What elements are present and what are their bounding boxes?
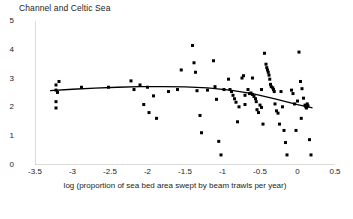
data-point [199, 114, 202, 117]
data-point [227, 78, 230, 81]
data-point [214, 85, 217, 88]
data-point [155, 117, 158, 120]
data-point [55, 100, 58, 103]
data-point [295, 129, 298, 132]
data-point [58, 80, 61, 83]
data-point [238, 105, 241, 108]
data-point [301, 87, 304, 90]
x-tick-label: -3 [58, 168, 88, 176]
data-point [296, 100, 299, 103]
chart-title: Channel and Celtic Sea [19, 3, 111, 13]
data-point [142, 103, 145, 106]
scatter-canvas [35, 21, 335, 165]
data-point [256, 108, 259, 111]
data-point [232, 94, 235, 97]
data-point [55, 83, 58, 86]
data-point [55, 106, 58, 109]
data-point [255, 100, 258, 103]
data-point [133, 88, 136, 91]
data-point [220, 153, 223, 156]
data-point [299, 80, 302, 83]
data-point [223, 88, 226, 91]
data-point [274, 102, 277, 105]
data-point [206, 89, 209, 92]
data-point [267, 71, 270, 74]
x-tick-label: -2.5 [95, 168, 125, 176]
data-point [310, 153, 313, 156]
data-point [180, 68, 183, 71]
data-point [194, 71, 197, 74]
x-tick-label: -1 [208, 168, 238, 176]
data-point [260, 106, 263, 109]
data-point [233, 97, 236, 100]
data-point [148, 111, 151, 114]
data-point [257, 111, 260, 114]
chart-figure: Channel and Celtic Sea log (starfish cat… [0, 0, 353, 219]
data-point [217, 140, 220, 143]
data-point [265, 63, 268, 66]
y-tick-label: 2 [0, 103, 14, 111]
data-point [298, 51, 301, 54]
data-point [235, 101, 238, 104]
data-point [280, 90, 283, 93]
data-point [262, 123, 265, 126]
plot-area [35, 21, 335, 165]
data-point [107, 86, 110, 89]
data-point [230, 90, 233, 93]
data-point [290, 89, 293, 92]
data-point [278, 123, 281, 126]
x-tick-label: -2 [133, 168, 163, 176]
y-tick-label: 5 [0, 17, 14, 25]
data-point [300, 117, 303, 120]
data-point [307, 104, 310, 107]
x-tick-label: -0.5 [245, 168, 275, 176]
data-point [244, 94, 247, 97]
data-point [176, 88, 179, 91]
data-point [268, 74, 271, 77]
y-tick-label: 3 [0, 75, 14, 83]
data-point [286, 153, 289, 156]
data-point [308, 138, 311, 141]
data-point [283, 129, 286, 132]
x-tick-label: -1.5 [170, 168, 200, 176]
data-point [152, 94, 155, 97]
data-point [193, 61, 196, 64]
x-tick-label: -3.5 [20, 168, 50, 176]
data-point [263, 52, 266, 55]
data-point [302, 97, 305, 100]
data-point [56, 91, 59, 94]
data-point [251, 77, 254, 80]
data-point [196, 89, 199, 92]
x-tick-label: 0 [283, 168, 313, 176]
x-tick-label: 0.5 [320, 168, 350, 176]
data-point [212, 59, 215, 62]
x-axis-label: log (proportion of sea bed area swept by… [40, 180, 310, 191]
data-point [167, 90, 170, 93]
data-point [281, 105, 284, 108]
data-point [191, 44, 194, 47]
data-point [268, 78, 271, 81]
data-point [130, 79, 133, 82]
y-tick-label: 4 [0, 46, 14, 54]
data-point [273, 90, 276, 93]
data-point [236, 120, 239, 123]
data-point [215, 98, 218, 101]
data-point [139, 83, 142, 86]
y-tick-label: 1 [0, 132, 14, 140]
data-point [80, 86, 83, 89]
y-tick-label: 0 [0, 161, 14, 169]
data-point [146, 86, 149, 89]
data-point [247, 88, 250, 91]
data-point [242, 74, 245, 77]
data-point [200, 131, 203, 134]
data-point [292, 92, 295, 95]
data-point [293, 102, 296, 105]
data-point [284, 141, 287, 144]
data-point [244, 103, 247, 106]
data-point [277, 112, 280, 115]
data-point [260, 88, 263, 91]
data-point [254, 97, 257, 100]
